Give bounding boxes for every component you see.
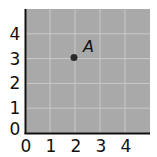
y-tick-label: 4 bbox=[10, 24, 21, 44]
x-tick-label: 3 bbox=[96, 136, 107, 156]
plot-area bbox=[25, 9, 150, 133]
point-a bbox=[71, 54, 78, 61]
y-tick-label: 1 bbox=[10, 98, 21, 118]
x-tick-label: 2 bbox=[71, 136, 82, 156]
y-tick-label: 0 bbox=[10, 119, 21, 139]
point-label: A bbox=[82, 37, 94, 56]
x-tick-labels: 01234 bbox=[21, 136, 132, 156]
x-tick-label: 1 bbox=[46, 136, 57, 156]
x-tick-label: 4 bbox=[121, 136, 132, 156]
y-tick-label: 3 bbox=[10, 49, 21, 69]
y-tick-labels: 01234 bbox=[10, 24, 21, 139]
x-tick-label: 0 bbox=[21, 136, 32, 156]
y-tick-label: 2 bbox=[10, 73, 21, 93]
coordinate-grid-chart: 01234 01234 A bbox=[0, 0, 157, 157]
